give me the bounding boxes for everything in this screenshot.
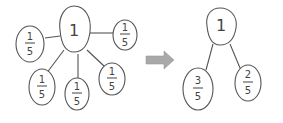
svg-text:1: 1: [109, 66, 115, 77]
svg-text:5: 5: [122, 37, 128, 48]
left-number-bond: 1 1 5 1 5 1 5 1 5 1 5: [16, 6, 137, 110]
right-root-value: 1: [216, 16, 226, 35]
right-arrow-icon: [146, 51, 174, 69]
svg-text:1: 1: [39, 74, 45, 85]
svg-text:5: 5: [195, 91, 201, 102]
svg-text:1: 1: [27, 31, 33, 42]
svg-text:5: 5: [74, 96, 80, 107]
svg-text:1: 1: [74, 81, 80, 92]
svg-text:5: 5: [39, 89, 45, 100]
svg-text:2: 2: [245, 69, 251, 80]
svg-text:5: 5: [109, 81, 115, 92]
left-root-value: 1: [69, 21, 79, 40]
right-number-bond: 1 3 5 2 5: [183, 8, 261, 110]
svg-text:5: 5: [245, 85, 251, 96]
svg-text:5: 5: [27, 46, 33, 57]
svg-text:3: 3: [195, 75, 201, 86]
svg-text:1: 1: [122, 22, 128, 33]
number-bond-diagram: 1 1 5 1 5 1 5 1 5 1 5 1 3 5 2: [0, 0, 283, 123]
